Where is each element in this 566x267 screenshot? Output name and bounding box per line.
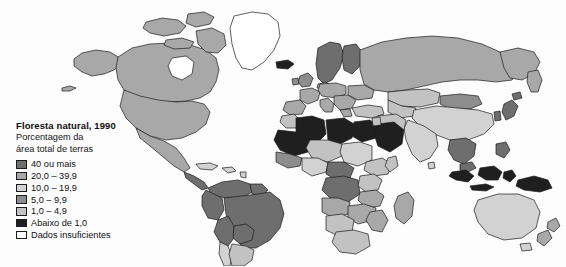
- legend-label-5-to-9: 5,0 – 9,9: [31, 195, 67, 205]
- map-legend: Floresta natural, 1990 Porcentagem da ár…: [14, 119, 118, 243]
- legend-label-10-to-19: 10,0 – 19,9: [31, 183, 77, 193]
- world-map-figure: Floresta natural, 1990 Porcentagem da ár…: [0, 0, 566, 267]
- legend-subtitle-line-2: área total de terras: [16, 144, 116, 156]
- legend-row-10-to-19: 10,0 – 19,9: [16, 183, 116, 194]
- legend-subtitle-line-1: Porcentagem da: [16, 132, 116, 144]
- legend-swatch-below-1: [16, 219, 27, 228]
- legend-label-20-to-39: 20,0 – 39,9: [31, 171, 77, 181]
- legend-swatch-insufficient-data: [16, 231, 27, 240]
- legend-label-insufficient-data: Dados insuficientes: [31, 230, 111, 240]
- legend-label-1-to-4: 1,0 – 4,9: [31, 206, 67, 216]
- region-tasmania: [520, 243, 532, 251]
- legend-row-insufficient-data: Dados insuficientes: [16, 230, 116, 241]
- legend-row-1-to-4: 1,0 – 4,9: [16, 206, 116, 217]
- region-korea: [494, 111, 501, 121]
- legend-swatch-40-or-more: [16, 160, 27, 169]
- legend-row-below-1: Abaixo de 1,0: [16, 218, 116, 229]
- legend-row-5-to-9: 5,0 – 9,9: [16, 194, 116, 205]
- region-ireland: [292, 78, 299, 85]
- region-sri-lanka: [428, 162, 435, 169]
- legend-title: Floresta natural, 1990: [16, 120, 116, 132]
- region-iberia: [283, 100, 306, 115]
- region-israel-levant: [372, 117, 381, 126]
- legend-swatch-20-to-39: [16, 172, 27, 181]
- region-lesser-antilles: [240, 172, 246, 178]
- legend-swatch-1-to-4: [16, 207, 27, 216]
- legend-label-40-or-more: 40 ou mais: [31, 159, 76, 169]
- legend-row-40-or-more: 40 ou mais: [16, 159, 116, 170]
- legend-label-below-1: Abaixo de 1,0: [31, 218, 87, 228]
- legend-swatch-5-to-9: [16, 195, 27, 204]
- legend-row-20-to-39: 20,0 – 39,9: [16, 171, 116, 182]
- legend-rows: 40 ou mais 20,0 – 39,9 10,0 – 19,9 5,0 –…: [16, 159, 116, 240]
- legend-swatch-10-to-19: [16, 184, 27, 193]
